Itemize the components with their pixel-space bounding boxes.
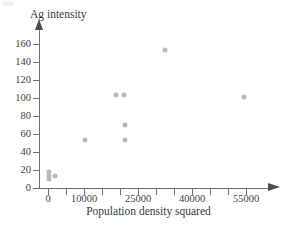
y-tick-mark xyxy=(33,134,39,135)
y-tick-label-text: 80 xyxy=(1,111,31,122)
y-tick-mark xyxy=(33,62,39,63)
x-axis-title: Population density squared xyxy=(0,205,297,217)
y-tick-label: 80 xyxy=(0,111,31,122)
x-tick-label: 55000 xyxy=(233,193,259,204)
data-point xyxy=(242,95,247,100)
y-axis-arrow-icon xyxy=(35,19,43,30)
y-axis-title: Ag intensity xyxy=(30,8,87,20)
y-tick-label-text: 120 xyxy=(1,75,31,86)
y-tick-mark xyxy=(33,98,39,99)
y-axis-line xyxy=(39,28,40,189)
y-tick-mark xyxy=(33,152,39,153)
y-tick-label: 120 xyxy=(0,75,31,86)
y-tick-label: 160 xyxy=(0,39,31,50)
y-tick-label-text: 40 xyxy=(1,147,31,158)
data-point xyxy=(122,123,127,128)
x-tick-mark xyxy=(210,189,211,195)
y-tick-label: 40 xyxy=(0,147,31,158)
y-tick-mark xyxy=(33,170,39,171)
x-tick-mark xyxy=(156,189,157,195)
data-point xyxy=(163,48,168,53)
data-point xyxy=(82,138,87,143)
x-tick-label: 10000 xyxy=(71,193,97,204)
x-tick-label: 0 xyxy=(45,193,50,204)
data-point xyxy=(52,174,57,179)
y-tick-label-text: 0 xyxy=(1,183,31,194)
y-tick-label: 100 xyxy=(0,93,31,104)
x-tick-mark xyxy=(228,189,229,195)
y-tick-label: 140 xyxy=(0,57,31,68)
y-tick-mark xyxy=(33,188,39,189)
y-tick-label: 20 xyxy=(0,165,31,176)
data-point xyxy=(114,93,119,98)
x-tick-label: 40000 xyxy=(179,193,205,204)
x-tick-mark xyxy=(174,189,175,195)
y-tick-mark xyxy=(33,80,39,81)
y-tick-label-text: 140 xyxy=(1,57,31,68)
scatter-plot: Ag intensity Population density squared … xyxy=(0,0,297,225)
data-point xyxy=(122,93,127,98)
x-axis-arrow-icon xyxy=(268,183,280,191)
x-tick-mark xyxy=(102,189,103,195)
data-point xyxy=(47,177,52,182)
y-tick-label-text: 100 xyxy=(1,93,31,104)
y-tick-mark xyxy=(33,116,39,117)
x-tick-mark xyxy=(66,189,67,195)
x-tick-mark xyxy=(120,189,121,195)
data-point xyxy=(122,138,127,143)
x-tick-label: 25000 xyxy=(125,193,151,204)
y-tick-label: 60 xyxy=(0,129,31,140)
y-tick-label-text: 60 xyxy=(1,129,31,140)
y-tick-label: 0 xyxy=(0,183,31,194)
y-tick-mark xyxy=(33,44,39,45)
chart-figure: Ag intensity Population density squared … xyxy=(0,0,297,225)
y-tick-label-text: 160 xyxy=(1,39,31,50)
x-axis-line xyxy=(39,188,270,189)
y-tick-label-text: 20 xyxy=(1,165,31,176)
